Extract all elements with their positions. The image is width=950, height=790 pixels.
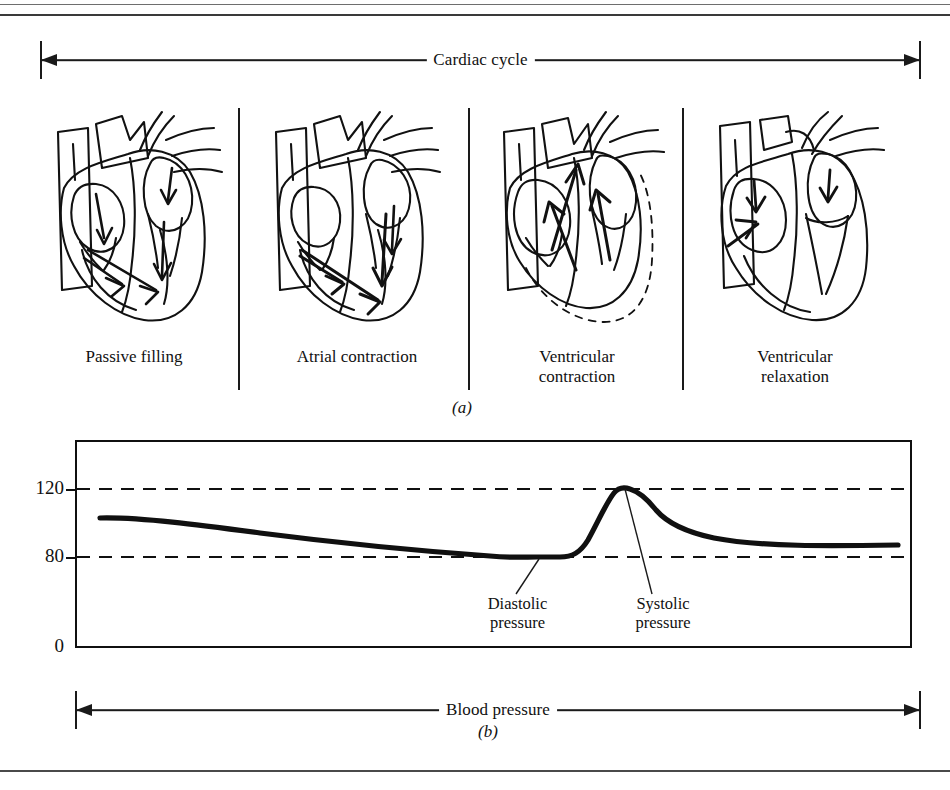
leader-line-diastolic	[516, 559, 539, 594]
plot-curve-layer	[0, 0, 950, 790]
cardiac-cycle-figure: Cardiac cycle	[0, 0, 950, 790]
blood-pressure-curve	[100, 488, 898, 557]
arrowhead-right-icon-bottom	[904, 704, 920, 716]
leader-line-systolic	[625, 489, 652, 594]
span-endcap-left-bottom	[75, 691, 77, 729]
blood-pressure-label: Blood pressure	[439, 700, 557, 720]
annotation-systolic-pressure: Systolic pressure	[598, 594, 728, 633]
figure-tag-b: (b)	[478, 722, 498, 742]
annotation-diastolic-pressure: Diastolic pressure	[450, 594, 585, 633]
arrowhead-left-icon-bottom	[76, 704, 92, 716]
span-endcap-right-bottom	[919, 691, 921, 729]
blood-pressure-span-arrow: Blood pressure	[75, 690, 921, 730]
